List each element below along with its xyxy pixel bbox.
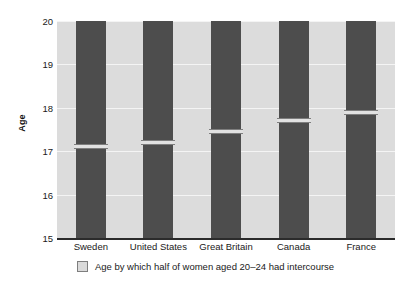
bar-group <box>143 21 173 238</box>
y-axis-tick-label: 15 <box>5 233 53 244</box>
bar <box>143 21 173 238</box>
bar-value-marker <box>209 129 243 134</box>
chart-container: Age 151617181920 SwedenUnited StatesGrea… <box>0 0 411 290</box>
x-axis-tick-label: United States <box>130 241 187 252</box>
y-axis-tick-label: 19 <box>5 59 53 70</box>
bar-group <box>211 21 241 238</box>
y-axis-tick-label: 20 <box>5 16 53 27</box>
x-axis-tick-label: France <box>346 241 376 252</box>
x-axis-tick-label: Canada <box>277 241 310 252</box>
legend: Age by which half of women aged 20–24 ha… <box>0 261 411 272</box>
plot-area <box>57 21 395 238</box>
bar <box>346 21 376 238</box>
bar-group <box>76 21 106 238</box>
y-axis-tick-labels: 151617181920 <box>0 0 53 290</box>
y-axis-tick-label: 16 <box>5 189 53 200</box>
bar-value-marker <box>141 140 175 145</box>
x-axis-tick-labels: SwedenUnited StatesGreat BritainCanadaFr… <box>57 241 395 257</box>
bar-value-marker <box>344 110 378 115</box>
x-axis-tick-label: Great Britain <box>199 241 252 252</box>
x-axis-line <box>57 238 395 240</box>
y-axis-tick-label: 18 <box>5 102 53 113</box>
bar <box>76 21 106 238</box>
x-axis-tick-label: Sweden <box>74 241 108 252</box>
bar-group <box>279 21 309 238</box>
legend-label: Age by which half of women aged 20–24 ha… <box>95 261 334 272</box>
legend-swatch-icon <box>77 261 88 272</box>
y-axis-tick-label: 17 <box>5 146 53 157</box>
bar <box>279 21 309 238</box>
bar-value-marker <box>74 144 108 149</box>
bar-group <box>346 21 376 238</box>
bar-value-marker <box>277 118 311 123</box>
